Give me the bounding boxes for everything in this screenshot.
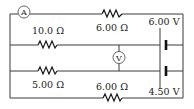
battery-lower-label: 4.50 V <box>148 86 179 97</box>
resistor-top: 6.00 Ω <box>96 10 128 33</box>
ammeter: A <box>18 6 30 18</box>
voltmeter-label: V <box>115 54 122 63</box>
ammeter-label: A <box>20 8 27 17</box>
resistor-10-ohm-label: 10.0 Ω <box>32 25 64 36</box>
circuit-diagram: A 6.00 Ω 10.0 Ω 5.00 Ω 6.00 Ω V 6.00 V 4… <box>0 0 194 109</box>
resistor-top-label: 6.00 Ω <box>96 22 128 33</box>
voltmeter: V <box>113 45 125 71</box>
resistor-5-ohm: 5.00 Ω <box>32 67 64 90</box>
resistor-5-ohm-label: 5.00 Ω <box>32 79 64 90</box>
battery-upper-label: 6.00 V <box>148 16 179 27</box>
resistor-bottom-label: 6.00 Ω <box>96 81 128 92</box>
